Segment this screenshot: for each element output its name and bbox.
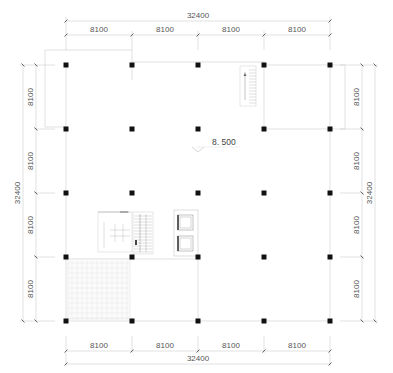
dim-top-span-2: 8100 (156, 25, 174, 34)
column-0-1 (130, 63, 135, 68)
column-4-0 (64, 319, 69, 324)
column-1-4 (328, 127, 333, 132)
elevator-2 (178, 236, 193, 251)
column-2-0 (64, 191, 69, 196)
dim-right-span-3: 8100 (352, 216, 361, 234)
dim-left-total: 32400 (13, 181, 22, 204)
column-4-1 (130, 319, 135, 324)
dim-right-total: 32400 (365, 181, 374, 204)
column-2-2 (196, 191, 201, 196)
column-2-3 (262, 191, 267, 196)
dim-bottom-span-4: 8100 (288, 341, 306, 350)
column-1-0 (64, 127, 69, 132)
tiled-area-south-west (68, 259, 130, 319)
column-3-0 (64, 255, 69, 260)
column-4-2 (196, 319, 201, 324)
dim-top-span-1: 8100 (90, 25, 108, 34)
column-4-3 (262, 319, 267, 324)
dim-left-span-3: 8100 (26, 216, 35, 234)
dim-top-total: 32400 (187, 11, 210, 20)
dim-top-span-4: 8100 (288, 25, 306, 34)
dim-left-span-4: 8100 (26, 280, 35, 298)
dim-right-span-2: 8100 (352, 152, 361, 170)
floor-plan: 8. 500 32400 8100 8100 8100 8100 (0, 0, 393, 373)
stair-north-east (240, 66, 256, 106)
dim-right-span-4: 8100 (352, 280, 361, 298)
column-3-2 (196, 255, 201, 260)
column-3-1 (130, 255, 135, 260)
column-1-2 (196, 127, 201, 132)
dim-bottom-span-2: 8100 (156, 341, 174, 350)
dim-left-span-1: 8100 (26, 88, 35, 106)
column-3-3 (262, 255, 267, 260)
column-2-4 (328, 191, 333, 196)
column-3-4 (328, 255, 333, 260)
elevator-shaft (174, 210, 198, 256)
column-0-4 (328, 63, 333, 68)
elevation-marker: 8. 500 (192, 137, 240, 152)
elevator-1 (178, 215, 193, 230)
column-0-0 (64, 63, 69, 68)
dim-bottom-span-3: 8100 (222, 341, 240, 350)
column-1-1 (130, 127, 135, 132)
dim-right-span-1: 8100 (352, 88, 361, 106)
column-4-4 (328, 319, 333, 324)
elevation-label: 8. 500 (212, 137, 236, 147)
dim-bottom-span-1: 8100 (90, 341, 108, 350)
column-0-2 (196, 63, 201, 68)
dim-left-span-2: 8100 (26, 152, 35, 170)
dim-bottom-total: 32400 (187, 354, 210, 363)
column-0-3 (262, 63, 267, 68)
column-1-3 (262, 127, 267, 132)
dim-top-span-3: 8100 (222, 25, 240, 34)
column-2-1 (130, 191, 135, 196)
stair-core-west (98, 212, 153, 254)
